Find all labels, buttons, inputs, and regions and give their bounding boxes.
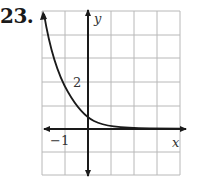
curve-arrow-icon	[40, 11, 47, 20]
grid	[42, 11, 180, 175]
y-tick-label: 2	[73, 75, 81, 90]
graph	[0, 0, 214, 179]
x-tick-label: −1	[50, 133, 69, 148]
x-axis-label: x	[172, 135, 179, 150]
y-axis-label: y	[94, 11, 101, 26]
